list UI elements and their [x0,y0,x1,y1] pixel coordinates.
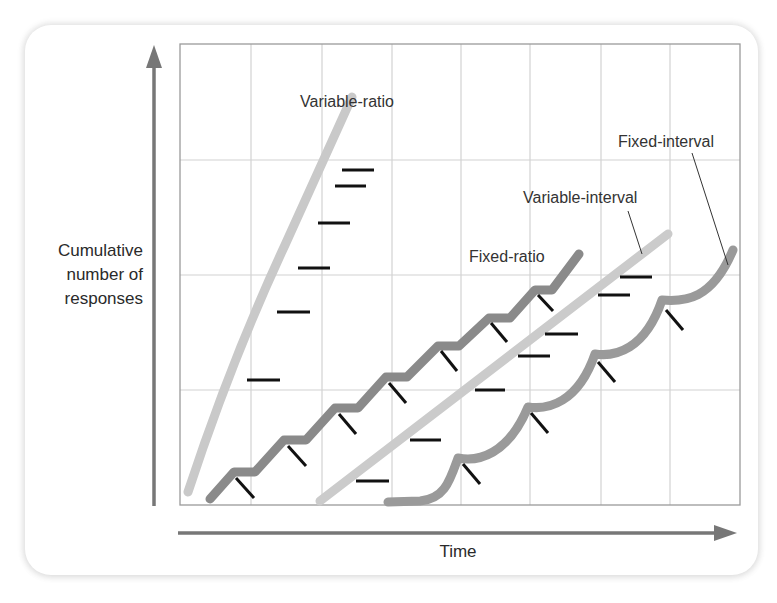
fixed-interval-line [388,250,733,502]
variable-interval-label: Variable-interval [523,189,637,206]
fixed-ratio-label: Fixed-ratio [469,248,545,265]
y-axis-label: Cumulative number of responses [58,241,143,308]
variable-interval-line [320,234,668,501]
fixed-interval-callout [692,153,728,265]
variable-interval-callout [628,211,642,254]
grid [180,44,740,505]
y-axis-label-line-1: Cumulative [58,241,143,260]
fixed-interval-label: Fixed-interval [618,133,714,150]
variable-ratio-line [188,97,352,492]
y-axis-label-line-3: responses [65,289,143,308]
x-axis-arrow [178,525,737,541]
y-axis-arrow [146,45,162,506]
fixed-ratio-marks [236,295,553,498]
x-axis-label: Time [439,542,476,561]
reinforcement-schedules-chart: Variable-ratio Fixed-ratio Variable-inte… [0,0,777,603]
y-axis-label-line-2: number of [66,265,143,284]
variable-ratio-label: Variable-ratio [300,93,394,110]
